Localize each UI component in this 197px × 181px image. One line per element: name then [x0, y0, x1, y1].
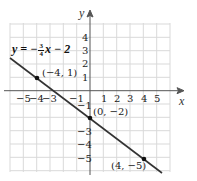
equation-lhs: y = −: [12, 42, 37, 56]
coordinate-plane: [0, 0, 197, 181]
y-tick: 4: [82, 33, 88, 43]
equation-label: y = −34x − 2: [12, 43, 70, 58]
x-axis-arrow-icon: [177, 88, 184, 94]
y-tick: −4: [77, 140, 92, 150]
x-axis-label: x: [179, 94, 184, 109]
point-neg4-1: [35, 76, 40, 81]
point-label-neg4-1: (−4, 1): [42, 67, 77, 78]
y-axis-arrow-icon: [87, 10, 93, 17]
point-0-neg2: [88, 116, 93, 121]
y-tick: 1: [82, 73, 88, 83]
fraction-denominator: 4: [38, 51, 44, 58]
point-label-0-neg2: (0, −2): [93, 106, 128, 117]
y-tick: −1: [77, 101, 92, 111]
x-tick: −3: [42, 94, 57, 104]
x-tick: 1: [101, 94, 107, 104]
x-tick: 2: [114, 94, 120, 104]
x-tick: 4: [141, 94, 147, 104]
x-tick: 3: [127, 94, 133, 104]
y-tick: 2: [82, 59, 88, 69]
x-tick: 5: [154, 94, 160, 104]
equation-rhs: x − 2: [45, 42, 70, 56]
y-axis-label: y: [79, 6, 84, 21]
point-label-4-neg5: (4, −5): [111, 160, 146, 171]
equation-fraction: 34: [38, 43, 44, 58]
y-tick: 3: [82, 46, 88, 56]
y-tick: −3: [77, 127, 92, 137]
y-tick: −5: [77, 154, 92, 164]
